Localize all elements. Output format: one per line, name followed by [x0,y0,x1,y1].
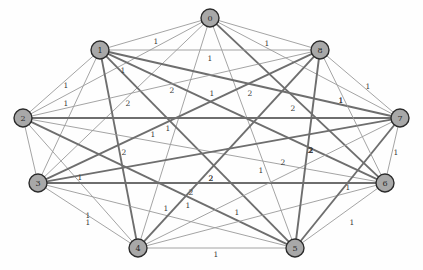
edge-weight-label: 1 [64,81,69,90]
edge-weight-label: 1 [265,39,270,48]
edge-weight-label: 1 [259,166,264,175]
node-label: 8 [317,46,322,55]
graph-edge [218,22,392,114]
edge-weight-label: 1 [339,96,344,105]
edge-weight-label: 1 [186,201,191,210]
graph-edge [32,120,376,182]
graph-node-2[interactable]: 2 [14,109,32,127]
graph-edge [46,54,312,179]
node-label: 7 [397,114,402,123]
graph-edge [102,59,137,239]
edge-weight-label: 2 [281,158,286,167]
graph-node-5[interactable]: 5 [286,239,304,257]
node-label: 4 [135,244,140,253]
graph-node-4[interactable]: 4 [129,239,147,257]
edge-weight-label: 1 [166,124,171,133]
graph-node-0[interactable]: 0 [201,9,219,27]
node-label: 2 [20,114,25,123]
edge-weight-label: 2 [189,188,194,197]
node-label: 0 [207,14,212,23]
graph-node-6[interactable]: 6 [376,174,394,192]
graph-edge [25,127,36,174]
edge-weight-label: 1 [64,99,69,108]
edge-weight-label: 2 [126,99,131,108]
edge-weight-label: 1 [346,183,351,192]
graph-canvas: 111111211112222112121112221112122111 012… [0,0,423,270]
edge-weight-label: 2 [209,174,214,183]
edge-weight-label: 2 [122,148,127,157]
graph-svg: 111111211112222112121112221112122111 012… [0,0,423,270]
edge-weight-label: 2 [170,86,175,95]
graph-edge [47,185,287,246]
edge-weight-label: 1 [154,37,159,46]
edge-weight-label: 2 [291,104,296,113]
edge-weight-label: 1 [164,204,169,213]
edge-weight-label: 1 [394,148,399,157]
node-label: 1 [97,46,102,55]
edge-weight-label: 1 [214,250,219,259]
edge-weight-label: 1 [78,173,83,182]
node-label: 5 [292,244,297,253]
edge-weight-label: 1 [208,54,213,63]
edge-weight-label: 1 [121,66,126,75]
graph-node-1[interactable]: 1 [91,41,109,59]
graph-node-8[interactable]: 8 [311,41,329,59]
graph-edge [324,58,381,175]
edge-weight-label: 1 [366,82,371,91]
graph-node-3[interactable]: 3 [29,174,47,192]
graph-edge [302,188,377,242]
node-label: 3 [35,179,40,188]
edge-weight-label: 2 [248,89,253,98]
edge-weight-label: 1 [235,208,240,217]
graph-node-7[interactable]: 7 [391,109,409,127]
graph-edge [108,54,377,179]
edge-weight-label: 1 [210,89,215,98]
graph-edge [42,58,96,175]
edge-weight-label: 1 [151,130,156,139]
edge-weight-label: 1 [86,218,91,227]
node-label: 6 [382,179,387,188]
edge-weight-label: 1 [350,218,355,227]
edge-weight-label: 2 [309,146,314,155]
